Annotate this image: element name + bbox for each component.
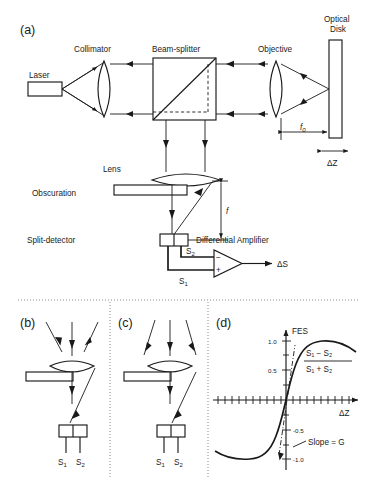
detector-lens (152, 174, 220, 186)
b-ray-left (46, 322, 62, 352)
arrow-lower-forward (126, 111, 133, 117)
optical-pickup-figure: (a) Collimator Beam-splitter Objective O… (0, 0, 375, 484)
label-differential-amplifier: Differential Amplifier (196, 236, 269, 245)
objective-lens (270, 61, 282, 117)
c-lens (148, 361, 192, 372)
c-arrow-oblique (174, 410, 182, 419)
d-label-slope: Slope = G (308, 438, 345, 447)
d-ytick-1-0: 1.0 (268, 338, 277, 345)
arrow-forward-lower-obj (258, 111, 265, 117)
panel-label-b: (b) (20, 316, 35, 330)
panel-label-c: (c) (118, 316, 133, 330)
label-optical-disk-line1: Optical (324, 15, 350, 24)
label-lens: Lens (103, 165, 121, 174)
optical-disk (329, 40, 342, 138)
label-s2: S2 (186, 247, 195, 257)
collimator-lens (98, 61, 110, 117)
figure-canvas: (a) Collimator Beam-splitter Objective O… (0, 0, 375, 484)
d-slope-leader (293, 441, 306, 447)
label-objective: Objective (258, 45, 293, 54)
b-label-s2: S2 (76, 458, 85, 468)
b-obscuration (26, 372, 73, 381)
b-arrow-down-straight (69, 386, 75, 395)
label-collimator: Collimator (74, 45, 111, 54)
arrow-return-lower (226, 111, 234, 117)
label-laser: Laser (29, 71, 50, 80)
c-obscuration (124, 372, 171, 381)
amp-plus-input: + (216, 266, 221, 275)
label-beam-splitter: Beam-splitter (152, 45, 201, 54)
ray-laser-upper-ext (62, 63, 103, 89)
label-s1: S1 (179, 277, 188, 287)
amp-minus-input: − (216, 253, 221, 262)
laser-source (28, 82, 62, 96)
label-split-detector: Split-detector (27, 236, 76, 245)
b-arrow-center (69, 340, 75, 349)
panel-label-a: (a) (20, 23, 35, 37)
b-label-s1: S1 (58, 458, 67, 468)
arrow-converge-upper (300, 73, 307, 80)
arrow-down-left (163, 140, 169, 148)
c-arrow-down-straight (167, 386, 173, 395)
c-arrow-left (145, 342, 152, 351)
label-optical-disk-line2: Disk (330, 25, 347, 34)
arrow-ray-straight (169, 210, 175, 219)
arrow-converge-lower (300, 98, 307, 105)
b-arrow-oblique (72, 410, 80, 419)
label-output-delta-s: ΔS (277, 260, 288, 269)
label-delta-z: ΔZ (327, 159, 337, 168)
d-ratio-denominator: S₁ + S₂ (306, 365, 332, 374)
label-f: f (226, 207, 229, 216)
b-lens (50, 361, 94, 372)
arrow-ray-oblique (194, 188, 203, 196)
c-label-s1: S1 (156, 458, 165, 468)
d-label-delta-z: ΔZ (339, 409, 349, 418)
obscuration-plate (114, 185, 187, 195)
arrow-upper-forward (126, 61, 133, 67)
label-obscuration: Obscuration (32, 189, 77, 198)
d-ytick-neg-0-5: -0.5 (293, 427, 304, 434)
arrow-down-right (202, 140, 208, 148)
d-ratio-numerator: S₁ − S₂ (306, 349, 332, 358)
panel-label-d: (d) (216, 316, 231, 330)
d-label-fes: FES (292, 327, 308, 336)
d-ytick-neg-1-0: -1.0 (293, 456, 304, 463)
d-ytick-0-5: 0.5 (268, 367, 277, 374)
arrow-forward-upper-obj (258, 61, 265, 67)
label-f0: f0 (300, 123, 306, 133)
c-arrow-center (167, 342, 173, 351)
b-ray-right (84, 322, 98, 352)
ray-laser-lower-ext (62, 89, 103, 115)
c-label-s2: S2 (174, 458, 183, 468)
arrow-return-upper (226, 61, 234, 67)
